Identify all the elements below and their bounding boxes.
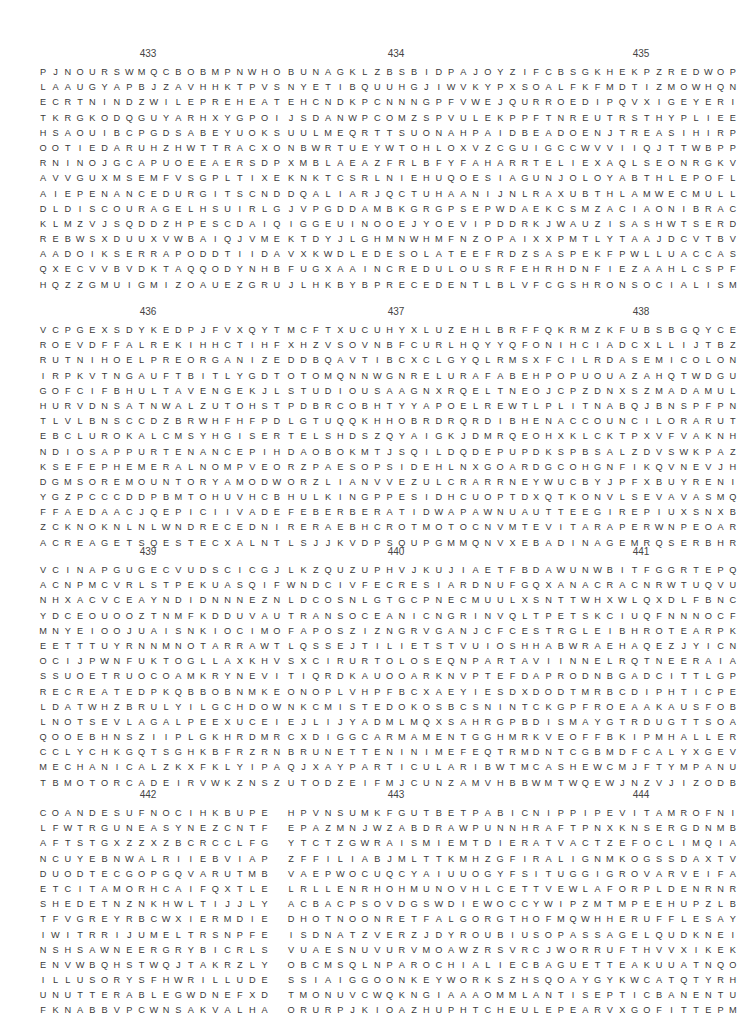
grid-letter: G <box>258 836 270 851</box>
grid-letter: Y <box>678 745 690 760</box>
grid-letter: O <box>371 897 383 912</box>
grid-letter: D <box>135 262 147 277</box>
grid-letter: V <box>665 460 677 475</box>
grid-row: COANDESUFNOCIHKBUPE <box>37 806 259 821</box>
grid-letter: Q <box>702 836 714 851</box>
grid-letter: P <box>322 867 334 882</box>
grid-letter: A <box>62 806 74 821</box>
grid-letter: O <box>457 171 469 186</box>
grid-letter: Z <box>346 624 358 639</box>
grid-letter: M <box>494 988 506 1003</box>
grid-letter: I <box>714 836 726 851</box>
grid-letter: B <box>408 65 420 80</box>
grid-letter: L <box>310 490 322 505</box>
grid-letter: E <box>653 897 665 912</box>
grid-letter: R <box>494 475 506 490</box>
grid-letter: U <box>433 171 445 186</box>
grid-letter: E <box>86 685 98 700</box>
grid-letter: A <box>86 943 98 958</box>
grid-letter: T <box>567 609 579 624</box>
grid-letter: B <box>197 65 209 80</box>
grid-letter: G <box>74 912 86 927</box>
grid-letter: A <box>604 338 616 353</box>
grid-letter: T <box>297 369 309 384</box>
grid-letter: Q <box>322 353 334 368</box>
grid-letter: S <box>209 217 221 232</box>
grid-letter: T <box>74 95 86 110</box>
grid-letter: I <box>408 505 420 520</box>
grid-letter: I <box>702 867 714 882</box>
grid-letter: O <box>567 730 579 745</box>
grid-letter: N <box>111 897 123 912</box>
grid-letter: N <box>506 821 518 836</box>
grid-letter: T <box>271 399 283 414</box>
grid-letter: N <box>234 593 246 608</box>
grid-letter: O <box>714 700 726 715</box>
grid-letter: D <box>678 384 690 399</box>
grid-letter: Z <box>702 897 714 912</box>
grid-letter: X <box>111 836 123 851</box>
grid-letter: L <box>234 1003 246 1013</box>
grid-row: QXANACRACNRWTUQVUONP <box>530 578 739 593</box>
grid-letter: L <box>469 111 481 126</box>
grid-letter: W <box>371 369 383 384</box>
grid-letter: R <box>383 730 395 745</box>
grid-letter: T <box>616 126 628 141</box>
grid-letter: G <box>665 715 677 730</box>
grid-letter: G <box>111 563 123 578</box>
grid-letter: A <box>542 821 554 836</box>
grid-letter: R <box>197 475 209 490</box>
grid-letter: V <box>542 882 554 897</box>
grid-letter: D <box>271 414 283 429</box>
grid-row: ETCITAMORHCAIFQXTLE <box>37 882 259 897</box>
grid-letter: S <box>555 247 567 262</box>
grid-letter: C <box>408 338 420 353</box>
grid-letter: N <box>396 973 408 988</box>
grid-letter: G <box>334 730 346 745</box>
grid-letter: I <box>359 624 371 639</box>
grid-letter: C <box>123 760 135 775</box>
grid-letter: K <box>469 80 481 95</box>
grid-letter: I <box>86 384 98 399</box>
grid-letter: L <box>246 943 258 958</box>
grid-letter: D <box>334 247 346 262</box>
grid-letter: Y <box>494 65 506 80</box>
grid-letter: N <box>258 520 270 535</box>
grid-letter: C <box>371 111 383 126</box>
grid-letter: F <box>555 821 567 836</box>
grid-letter: G <box>494 852 506 867</box>
grid-letter: R <box>530 95 542 110</box>
grid-letter: P <box>433 399 445 414</box>
grid-letter: A <box>135 593 147 608</box>
grid-letter: C <box>221 520 233 535</box>
grid-letter: L <box>445 262 457 277</box>
grid-letter: C <box>542 65 554 80</box>
grid-letter: F <box>234 988 246 1003</box>
grid-letter: A <box>62 126 74 141</box>
grid-letter: H <box>665 262 677 277</box>
grid-letter: H <box>197 338 209 353</box>
grid-letter: Q <box>641 141 653 156</box>
grid-letter: B <box>641 323 653 338</box>
grid-letter: X <box>148 836 160 851</box>
grid-letter: X <box>185 760 197 775</box>
grid-letter: N <box>234 685 246 700</box>
grid-letter: L <box>359 65 371 80</box>
grid-letter: L <box>702 669 714 684</box>
grid-row: TELSHDSZQYAIGKJDMRQE <box>285 429 507 444</box>
grid-letter: R <box>530 821 542 836</box>
grid-letter: E <box>135 943 147 958</box>
grid-letter: T <box>506 760 518 775</box>
grid-letter: F <box>506 669 518 684</box>
grid-letter: P <box>258 852 270 867</box>
grid-letter: N <box>714 593 726 608</box>
grid-letter: A <box>408 669 420 684</box>
grid-letter: M <box>160 639 172 654</box>
grid-letter: E <box>310 80 322 95</box>
grid-row: LFWTRGUNEASYNEZCNTF <box>37 821 259 836</box>
grid-letter: C <box>567 475 579 490</box>
grid-letter: U <box>148 475 160 490</box>
grid-letter: M <box>135 460 147 475</box>
grid-letter: R <box>714 126 726 141</box>
grid-letter: T <box>285 609 297 624</box>
